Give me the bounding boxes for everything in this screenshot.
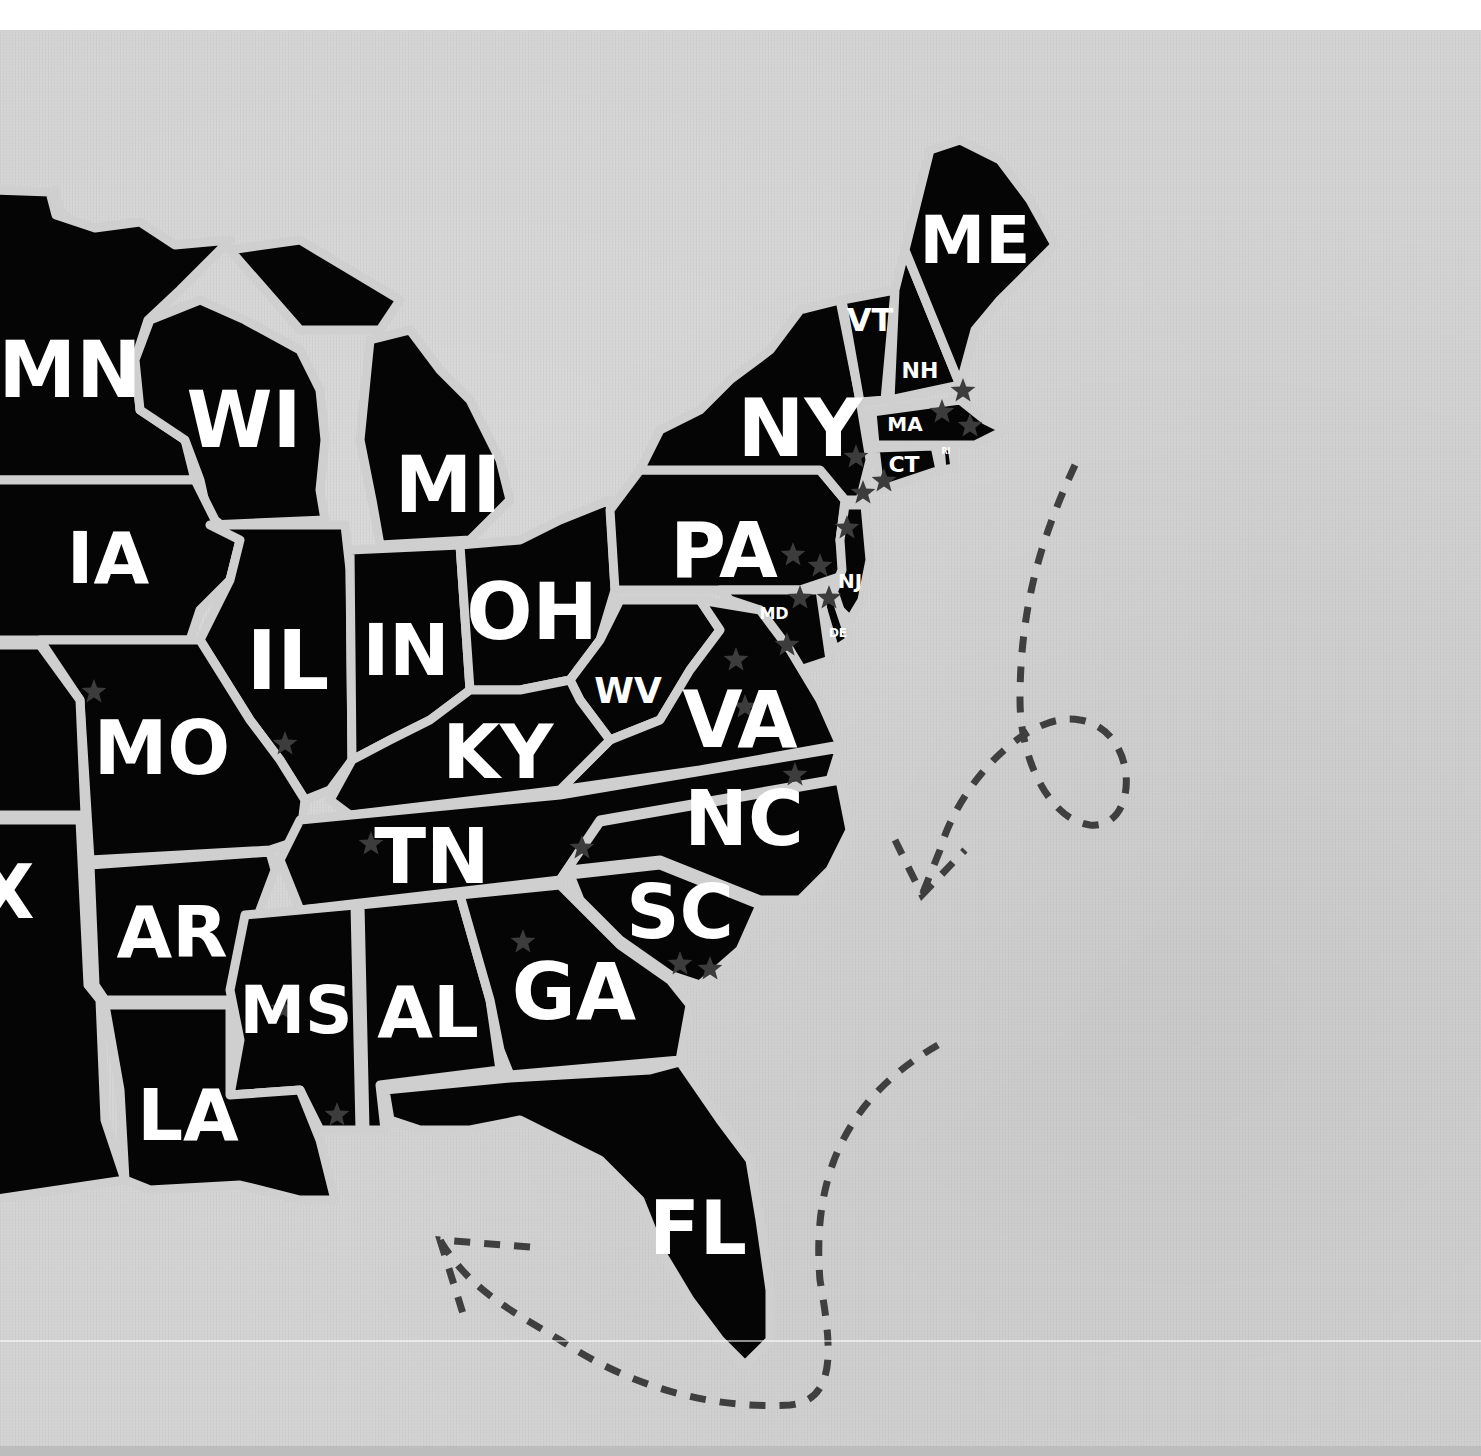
route-segment-atlantic: [922, 465, 1126, 895]
state-label-ma: MA: [887, 412, 923, 436]
state-label-ga: GA: [512, 947, 636, 1037]
state-label-nh: NH: [902, 358, 939, 383]
state-label-sc: SC: [626, 869, 734, 955]
state-label-mi: MI: [395, 440, 502, 530]
state-label-fl: FL: [649, 1185, 747, 1271]
state-label-tn: TN: [374, 812, 489, 901]
state-label-x: X: [0, 849, 35, 935]
state-label-pa: PA: [670, 506, 778, 595]
state-label-il: IL: [247, 613, 330, 708]
state-label-nc: NC: [684, 774, 803, 863]
state-label-md: MD: [759, 604, 788, 623]
route-arrowhead-atlantic: [895, 840, 965, 895]
state-label-de: DE: [829, 626, 847, 640]
state-label-mo: MO: [94, 705, 231, 791]
state-label-ar: AR: [116, 890, 227, 974]
state-label-ms: MS: [239, 972, 352, 1049]
state-label-vt: VT: [847, 301, 894, 339]
state-label-ct: CT: [888, 452, 919, 477]
paper-crease: [0, 1340, 1481, 1342]
state-label-la: LA: [137, 1073, 239, 1157]
state-label-ny: NY: [738, 382, 864, 475]
state-label-va: VA: [682, 675, 797, 765]
state-label-oh: OH: [466, 567, 598, 657]
state-label-ri: RI: [941, 447, 950, 456]
map-svg: MNWIMIIAILINOHPANYMEVTNHMACTRINJMDDEWVVA…: [0, 0, 1481, 1456]
state-label-ky: KY: [443, 709, 555, 795]
state-label-ia: IA: [67, 516, 150, 600]
map-canvas: MNWIMIIAILINOHPANYMEVTNHMACTRINJMDDEWVVA…: [0, 0, 1481, 1456]
state-label-mn: MN: [0, 325, 141, 415]
state-label-nj: NJ: [838, 569, 862, 593]
state-label-al: AL: [377, 970, 479, 1054]
state-label-in: IN: [362, 608, 449, 692]
bottom-edge: [0, 1446, 1481, 1456]
state-label-me: ME: [920, 202, 1031, 279]
state-label-wi: WI: [186, 375, 301, 465]
state-shape-mi[interactable]: [230, 240, 400, 330]
state-label-wv: WV: [594, 670, 662, 711]
route-arrowhead-gulf: [440, 1240, 530, 1320]
